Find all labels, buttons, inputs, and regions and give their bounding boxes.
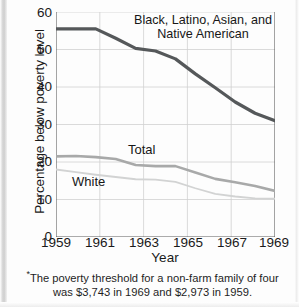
footnote-line2: was $3,743 in 1969 and $2,973 in 1959. xyxy=(53,286,252,298)
footnote-line1: The poverty threshold for a non-farm fam… xyxy=(30,272,279,284)
annotation-white-series: White xyxy=(72,175,105,189)
y-tick-10: 10 xyxy=(22,193,52,207)
y-axis-tick-labels: 60 50 40 30 20 10 0 xyxy=(20,0,52,307)
y-tick-50: 50 xyxy=(22,43,52,57)
footnote: *The poverty threshold for a non-farm fa… xyxy=(10,269,295,299)
y-tick-30: 30 xyxy=(22,118,52,132)
y-tick-60: 60 xyxy=(22,6,52,20)
x-tick-1969: 1969 xyxy=(248,236,299,250)
series-line-minority xyxy=(56,29,275,121)
annotation-total-series: Total xyxy=(128,143,155,157)
scan-edge-artifact-right xyxy=(295,0,299,307)
x-axis-label: Year xyxy=(55,250,275,265)
y-tick-40: 40 xyxy=(22,80,52,94)
y-tick-20: 20 xyxy=(22,155,52,169)
annotation-minority-line2: Native American xyxy=(157,27,249,41)
plot-area xyxy=(56,12,275,237)
annotation-minority-line1: Black, Latino, Asian, and xyxy=(134,13,272,27)
scan-edge-artifact-left xyxy=(0,0,7,307)
annotation-minority-series: Black, Latino, Asian, and Native America… xyxy=(113,14,293,41)
poverty-chart-figure: Percentage below poverty level 60 50 40 … xyxy=(0,0,299,307)
